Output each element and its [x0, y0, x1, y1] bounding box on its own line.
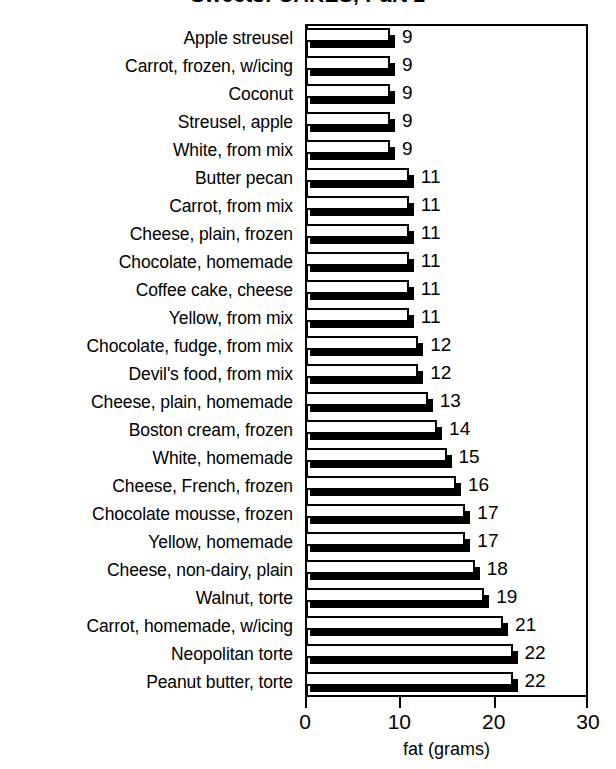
bar-value-label: 22: [525, 669, 546, 693]
category-label: White, from mix: [173, 136, 293, 164]
x-axis: 0102030: [305, 697, 588, 698]
bar-row: 15: [305, 444, 616, 472]
category-label: Chocolate, fudge, from mix: [86, 332, 293, 360]
category-label: Peanut butter, torte: [146, 668, 293, 696]
bar-value-label: 17: [477, 529, 498, 553]
bar-row: 11: [305, 220, 616, 248]
bar: [305, 168, 409, 182]
bar-value-label: 9: [402, 25, 413, 49]
category-label: Coffee cake, cheese: [136, 276, 293, 304]
bar: [305, 448, 447, 462]
category-label: Chocolate mousse, frozen: [92, 500, 293, 528]
bar-value-label: 14: [449, 417, 470, 441]
bar-row: 21: [305, 612, 616, 640]
bar-row: 11: [305, 164, 616, 192]
bar: [305, 252, 409, 266]
bar-row: 13: [305, 388, 616, 416]
bar: [305, 392, 428, 406]
bar: [305, 28, 390, 42]
category-label: Cheese, plain, homemade: [91, 388, 293, 416]
bar: [305, 84, 390, 98]
bar-value-label: 18: [487, 557, 508, 581]
bar-value-label: 21: [515, 613, 536, 637]
bar-value-label: 16: [468, 473, 489, 497]
x-axis-tick: [399, 697, 401, 708]
bar-row: 9: [305, 24, 616, 52]
bar: [305, 336, 418, 350]
chart-title: Sweets: CAKES, Part 2: [0, 0, 616, 7]
bar-row: 17: [305, 500, 616, 528]
bar: [305, 308, 409, 322]
category-label: Carrot, from mix: [169, 192, 293, 220]
bar: [305, 140, 390, 154]
bar: [305, 476, 456, 490]
x-axis-tick-label: 0: [275, 710, 335, 734]
bar-row: 9: [305, 80, 616, 108]
x-axis-title: fat (grams): [305, 738, 588, 760]
bar-value-label: 9: [402, 109, 413, 133]
bar-row: 19: [305, 584, 616, 612]
category-label: Cheese, plain, frozen: [130, 220, 293, 248]
x-axis-tick-label: 20: [464, 710, 524, 734]
bar-value-label: 9: [402, 81, 413, 105]
bar-row: 9: [305, 136, 616, 164]
bar-row: 17: [305, 528, 616, 556]
bar: [305, 588, 484, 602]
bar: [305, 56, 390, 70]
bar: [305, 280, 409, 294]
bar-row: 14: [305, 416, 616, 444]
bar-row: 11: [305, 248, 616, 276]
bar-value-label: 12: [430, 361, 451, 385]
bar: [305, 672, 513, 686]
category-label: Butter pecan: [195, 164, 293, 192]
bar: [305, 224, 409, 238]
category-label: Cheese, non-dairy, plain: [107, 556, 293, 584]
category-label: Carrot, homemade, w/icing: [86, 612, 293, 640]
category-label: Streusel, apple: [178, 108, 293, 136]
bar-row: 11: [305, 192, 616, 220]
bar-value-label: 11: [421, 221, 441, 245]
bar-value-label: 22: [525, 641, 546, 665]
bar-row: 18: [305, 556, 616, 584]
category-label: Neopolitan torte: [171, 640, 293, 668]
bar-row: 11: [305, 276, 616, 304]
bar: [305, 504, 465, 518]
x-axis-tick-label: 30: [558, 710, 616, 734]
bar-value-label: 13: [440, 389, 461, 413]
bar-value-label: 11: [421, 305, 441, 329]
bar: [305, 616, 503, 630]
category-label: Walnut, torte: [196, 584, 293, 612]
bar-value-label: 15: [459, 445, 480, 469]
category-label: Carrot, frozen, w/icing: [125, 52, 293, 80]
bar-row: 12: [305, 332, 616, 360]
bar-row: 16: [305, 472, 616, 500]
bar-value-label: 11: [421, 249, 441, 273]
bars-layer: 9999911111111111112121314151617171819212…: [305, 24, 616, 697]
bar: [305, 196, 409, 210]
bar-value-label: 12: [430, 333, 451, 357]
bar: [305, 364, 418, 378]
category-label: Boston cream, frozen: [129, 416, 293, 444]
category-label: Devil's food, from mix: [128, 360, 293, 388]
bar-row: 9: [305, 52, 616, 80]
bar-row: 11: [305, 304, 616, 332]
bar-value-label: 11: [421, 193, 441, 217]
category-axis-labels: Apple streuselCarrot, frozen, w/icingCoc…: [0, 24, 299, 697]
x-axis-tick: [305, 697, 307, 708]
bar-value-label: 17: [477, 501, 498, 525]
bar-value-label: 11: [421, 277, 441, 301]
bar-row: 22: [305, 668, 616, 696]
category-label: Cheese, French, frozen: [112, 472, 293, 500]
bar-row: 22: [305, 640, 616, 668]
x-axis-tick: [494, 697, 496, 708]
category-label: Coconut: [229, 80, 293, 108]
category-label: Yellow, homemade: [148, 528, 293, 556]
bar-value-label: 11: [421, 165, 441, 189]
category-label: Apple streusel: [184, 24, 294, 52]
category-label: Yellow, from mix: [169, 304, 293, 332]
bar-row: 12: [305, 360, 616, 388]
bar: [305, 532, 465, 546]
bar-value-label: 9: [402, 137, 413, 161]
bar-value-label: 19: [496, 585, 517, 609]
bar: [305, 560, 475, 574]
